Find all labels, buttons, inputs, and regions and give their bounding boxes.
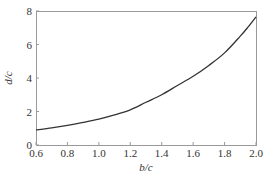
y-axis-label: d/c: [2, 71, 14, 85]
x-tick-label: 1.6: [186, 147, 200, 159]
x-tick-label: 2.0: [249, 147, 263, 159]
x-tick-label: 1.8: [218, 147, 232, 159]
y-axis-ticks: 02468: [27, 5, 40, 151]
y-tick-label: 4: [27, 72, 33, 84]
x-axis-ticks: 0.60.81.01.21.41.61.82.0: [29, 142, 263, 159]
line-chart: 0.60.81.01.21.41.61.82.0 02468 b/c d/c: [0, 0, 271, 177]
x-tick-label: 1.2: [123, 147, 137, 159]
y-tick-label: 8: [27, 5, 33, 17]
x-tick-label: 0.8: [61, 147, 75, 159]
y-tick-label: 2: [27, 106, 33, 118]
data-line: [36, 17, 256, 130]
y-tick-label: 6: [27, 39, 33, 51]
x-axis-label: b/c: [139, 161, 153, 173]
y-tick-label: 0: [27, 139, 33, 151]
x-tick-label: 1.4: [155, 147, 169, 159]
x-tick-label: 1.0: [92, 147, 106, 159]
